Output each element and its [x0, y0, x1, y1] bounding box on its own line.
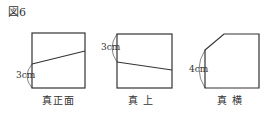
top-caption: 真 上	[128, 92, 154, 107]
front-view	[27, 33, 85, 88]
front-dimension-label: 3cm	[16, 70, 35, 80]
front-caption: 真正面	[42, 92, 75, 107]
side-view	[199, 34, 259, 88]
top-view	[112, 34, 172, 88]
top-dimension-label: 3cm	[101, 42, 120, 52]
side-dimension-label: 4cm	[189, 64, 208, 74]
side-caption: 真 横	[217, 92, 243, 107]
